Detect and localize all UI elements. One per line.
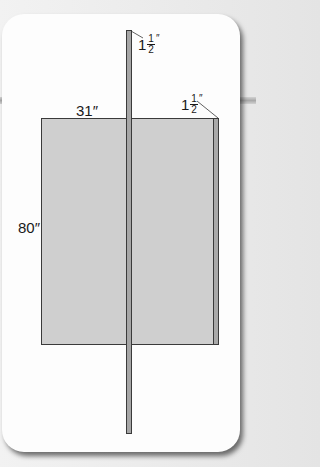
fraction-whole: 1 xyxy=(181,97,189,112)
fraction-stack: 1 2 xyxy=(190,94,198,115)
fraction-denominator: 2 xyxy=(191,105,197,115)
fraction-stack: 1 2 xyxy=(147,34,155,55)
long-vertical-strip xyxy=(126,30,132,434)
height-label: 80″ xyxy=(18,220,40,235)
inch-mark: ″ xyxy=(156,34,160,44)
inch-mark: ″ xyxy=(199,94,203,104)
right-edge-strip xyxy=(213,118,219,345)
width-label: 31″ xyxy=(76,103,98,118)
side-strip-thickness-label: 1 1 2 ″ xyxy=(181,94,202,115)
top-strip-thickness-label: 1 1 2 ″ xyxy=(138,34,159,55)
fraction-denominator: 2 xyxy=(148,45,154,55)
fraction-whole: 1 xyxy=(138,37,146,52)
